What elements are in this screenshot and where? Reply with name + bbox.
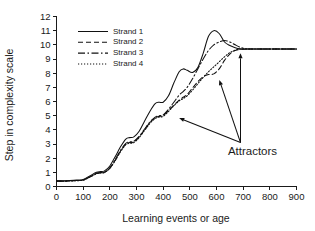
x-tick-label: 300: [129, 191, 145, 202]
y-tick-label: 3: [45, 138, 50, 149]
chart-legend: Strand 1Strand 2Strand 3Strand 4: [78, 27, 144, 68]
chart-figure: 0123456789101112 01002003004005006007008…: [0, 0, 315, 231]
legend-label-2: Strand 2: [113, 37, 144, 46]
y-tick-label: 0: [45, 181, 50, 192]
legend-label-4: Strand 4: [113, 59, 144, 68]
attractor-arrowhead-2: [219, 80, 223, 86]
x-tick-label: 0: [54, 191, 59, 202]
y-axis-ticks: 0123456789101112: [40, 11, 57, 192]
legend-label-3: Strand 3: [113, 48, 144, 57]
x-axis-title: Learning events or age: [122, 212, 230, 224]
series-line-4: [57, 49, 297, 181]
line-chart: 0123456789101112 01002003004005006007008…: [0, 0, 315, 231]
x-tick-label: 700: [235, 191, 251, 202]
y-tick-label: 7: [45, 82, 50, 93]
y-tick-label: 9: [45, 53, 50, 64]
attractor-arrowhead-3: [179, 118, 185, 122]
y-tick-label: 1: [45, 167, 50, 178]
series-line-2: [57, 49, 297, 181]
attractors-label: Attractors: [228, 145, 277, 157]
attractors-annotation: Attractors: [179, 53, 277, 156]
y-tick-label: 12: [40, 11, 51, 22]
y-tick-label: 5: [45, 110, 50, 121]
y-tick-label: 2: [45, 153, 50, 164]
y-axis-title: Step in complexity scale: [3, 49, 15, 162]
x-tick-label: 200: [102, 191, 118, 202]
axes: [57, 17, 297, 187]
attractor-arrowhead-1: [238, 53, 242, 58]
y-tick-label: 10: [40, 39, 51, 50]
series-line-3: [57, 41, 297, 182]
x-axis-ticks: 0100200300400500600700800900: [54, 187, 305, 202]
x-tick-label: 800: [262, 191, 278, 202]
attractor-arrow-2: [221, 85, 241, 143]
x-tick-label: 400: [155, 191, 171, 202]
x-tick-label: 600: [209, 191, 225, 202]
x-tick-label: 900: [289, 191, 305, 202]
y-tick-label: 4: [45, 124, 50, 135]
y-tick-label: 11: [41, 25, 51, 36]
x-tick-label: 100: [75, 191, 91, 202]
attractor-arrow-3: [184, 120, 241, 143]
y-tick-label: 8: [45, 68, 50, 79]
x-tick-label: 500: [182, 191, 198, 202]
y-tick-label: 6: [45, 96, 50, 107]
legend-label-1: Strand 1: [113, 27, 144, 36]
